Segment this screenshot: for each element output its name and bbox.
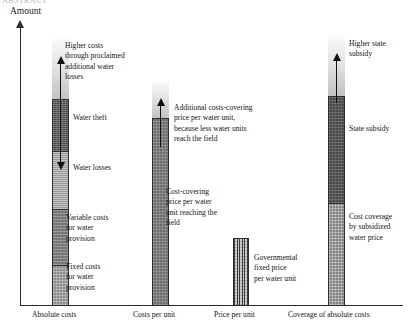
callout-water-theft: Water theft — [73, 113, 153, 123]
callout-higher-costs: Higher costs through proclaimed addition… — [65, 41, 147, 83]
callout-variable-costs: Variable costs for water provision — [66, 213, 146, 244]
x-label-absolute-costs: Absolute costs — [32, 310, 77, 319]
callout-fixed-costs: Fixed costs for water provision — [66, 262, 146, 293]
x-axis-line — [20, 305, 403, 306]
segment-state-subsidy — [328, 96, 345, 204]
callout-cost-coverage: Cost coverage by subsidized water price — [349, 212, 409, 243]
callout-cost-covering-price: Cost-covering price per water unit reach… — [166, 187, 246, 229]
callout-additional-price: Additional costs-covering price per wate… — [174, 103, 280, 145]
y-axis-line — [20, 26, 21, 306]
bar-price-per-unit — [233, 238, 249, 305]
x-label-coverage-absolute-costs: Coverage of absolute costs — [288, 310, 370, 319]
bar2-up-arrow-icon — [152, 98, 169, 147]
segment-governmental-fixed-price — [233, 238, 249, 305]
callout-state-subsidy: State subsidy — [349, 124, 409, 134]
x-label-price-per-unit: Price per unit — [214, 310, 255, 319]
x-label-costs-per-unit: Costs per unit — [133, 310, 175, 319]
clipped-header-text: ABSTRACT — [2, 0, 47, 5]
y-axis-title: Amount — [10, 6, 41, 16]
callout-governmental-price: Governmental fixed price per water unit — [254, 253, 336, 284]
bar1-down-arrow-icon — [52, 100, 69, 170]
callout-higher-state-subsidy: Higher state subsidy — [349, 39, 409, 60]
diagram-canvas: ABSTRACT Amount — [0, 0, 409, 335]
callout-water-losses: Water losses — [73, 163, 153, 173]
bar4-up-arrow-icon — [328, 53, 345, 103]
